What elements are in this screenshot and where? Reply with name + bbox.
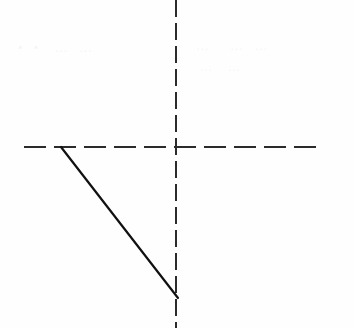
scanned-page: • • … … … … … … …: [0, 0, 354, 328]
figure-canvas: [0, 0, 354, 328]
solid-diagonal-segment: [61, 147, 178, 298]
